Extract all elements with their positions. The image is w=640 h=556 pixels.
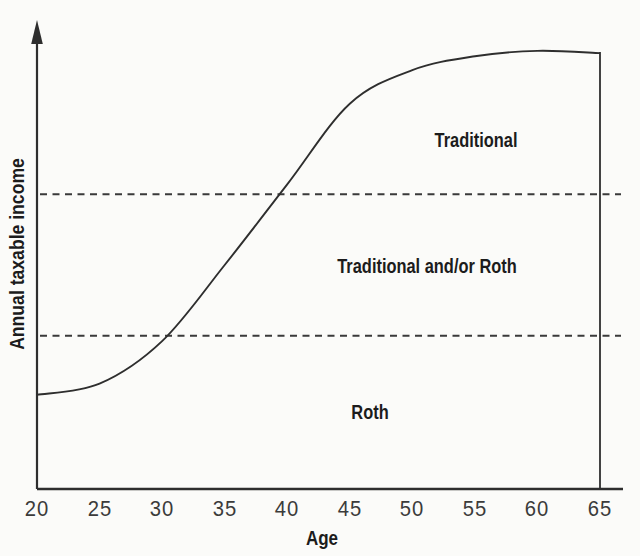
x-tick-label-30: 30 [150, 496, 174, 522]
region-label-traditional: Traditional [435, 129, 518, 152]
x-tick-label-20: 20 [25, 496, 49, 522]
x-tick-label-65: 65 [588, 496, 612, 522]
x-tick-label-45: 45 [338, 496, 362, 522]
plot-canvas [0, 0, 640, 556]
x-axis-label: Age [306, 527, 338, 550]
income-curve [37, 51, 600, 395]
x-tick-label-55: 55 [463, 496, 487, 522]
x-tick-label-40: 40 [275, 496, 299, 522]
region-label-traditional-and-or-roth: Traditional and/or Roth [337, 255, 516, 278]
ira-contribution-chart: Annual taxable income Age Traditional Tr… [0, 0, 640, 556]
x-tick-label-25: 25 [87, 496, 111, 522]
x-tick-label-60: 60 [525, 496, 549, 522]
y-axis-arrowhead [31, 20, 43, 44]
x-tick-label-35: 35 [212, 496, 236, 522]
region-label-roth: Roth [351, 401, 388, 424]
x-tick-label-50: 50 [400, 496, 424, 522]
y-axis-label: Annual taxable income [6, 158, 29, 350]
